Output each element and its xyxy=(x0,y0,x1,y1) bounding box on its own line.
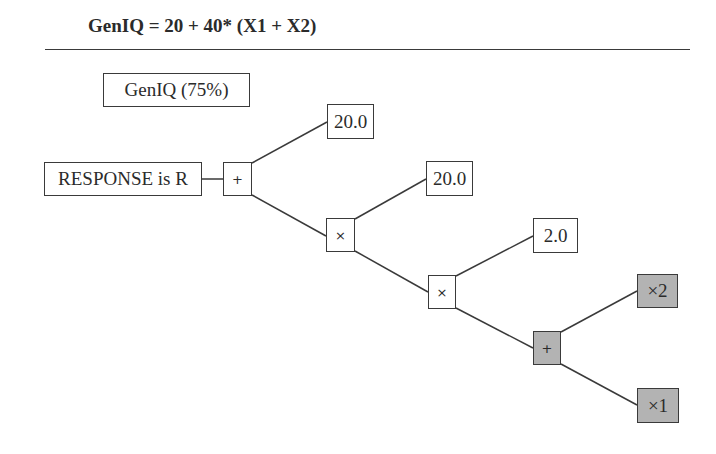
variable-node-x1: ×1 xyxy=(637,388,679,423)
constant-label: 20.0 xyxy=(334,111,367,133)
edge-plus2-var2 xyxy=(561,291,637,332)
genIQ-legend-label: GenIQ (75%) xyxy=(125,79,229,101)
constant-label: 20.0 xyxy=(433,168,466,190)
plus-operator-node: + xyxy=(223,162,252,196)
edge-times2-plus2 xyxy=(456,308,533,348)
times-icon: × xyxy=(437,285,448,300)
tree-edges xyxy=(0,0,716,454)
constant-node-20-top: 20.0 xyxy=(327,104,374,139)
edge-plus2-var1 xyxy=(561,364,637,405)
times-icon: × xyxy=(335,228,346,243)
edge-plus1-const1 xyxy=(252,122,327,163)
response-root-box: RESPONSE is R xyxy=(44,162,202,196)
variable-label: ×1 xyxy=(648,395,668,417)
edge-times1-times2 xyxy=(355,251,428,292)
constant-label: 2.0 xyxy=(544,225,568,247)
variable-node-x2: ×2 xyxy=(637,274,678,308)
times-operator-node-2: × xyxy=(428,275,456,309)
constant-node-20-mid: 20.0 xyxy=(426,161,473,196)
genIQ-legend-box: GenIQ (75%) xyxy=(103,73,250,107)
edge-times2-const3 xyxy=(456,236,533,276)
constant-node-2: 2.0 xyxy=(533,218,578,253)
times-operator-node-1: × xyxy=(326,218,355,252)
plus-icon: + xyxy=(542,341,553,356)
plus-icon: + xyxy=(232,172,243,187)
edge-times1-const2 xyxy=(355,179,426,219)
edge-plus1-times1 xyxy=(252,195,326,236)
plus-operator-node-shaded: + xyxy=(533,331,561,365)
variable-label: ×2 xyxy=(647,280,667,302)
response-root-label: RESPONSE is R xyxy=(58,168,188,190)
